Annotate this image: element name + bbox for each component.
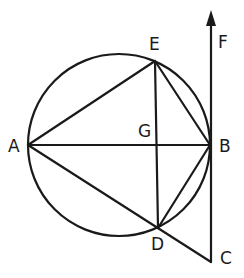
label-G: G xyxy=(138,121,151,141)
label-D: D xyxy=(151,234,164,254)
segment-EB xyxy=(155,61,210,145)
label-C: C xyxy=(220,248,232,268)
segment-ED xyxy=(155,61,158,228)
label-F: F xyxy=(218,32,228,52)
segment-AE xyxy=(28,61,155,145)
label-A: A xyxy=(8,136,20,156)
label-E: E xyxy=(149,34,160,54)
geometry-diagram: A B E D G C F xyxy=(0,0,244,278)
segment-AC xyxy=(28,145,211,262)
arrowhead-icon xyxy=(206,10,216,26)
label-B: B xyxy=(219,136,231,156)
segment-DB xyxy=(158,145,210,228)
